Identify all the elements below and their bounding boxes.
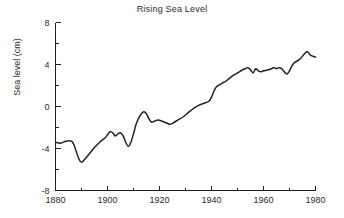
y-tick-label: 4 [44, 60, 49, 70]
y-tick-label: 8 [44, 18, 49, 28]
tick-labels: -8-4048188019001920194019601980 [41, 18, 325, 205]
data-series [56, 52, 316, 162]
data-line-sea-level [56, 52, 316, 162]
chart-figure: Rising Sea Level Sea level (cm) -8-40481… [0, 0, 344, 218]
line-chart-plot: -8-4048188019001920194019601980 [0, 0, 344, 218]
axis-spines [56, 23, 316, 191]
tick-marks [56, 23, 316, 191]
x-tick-label: 1880 [45, 195, 65, 205]
axes [56, 23, 316, 191]
y-tick-label: 0 [44, 102, 49, 112]
x-tick-label: 1940 [201, 195, 221, 205]
x-tick-label: 1920 [149, 195, 169, 205]
x-tick-label: 1900 [97, 195, 117, 205]
x-tick-label: 1960 [253, 195, 273, 205]
y-tick-label: -4 [41, 144, 49, 154]
x-tick-label: 1980 [305, 195, 325, 205]
